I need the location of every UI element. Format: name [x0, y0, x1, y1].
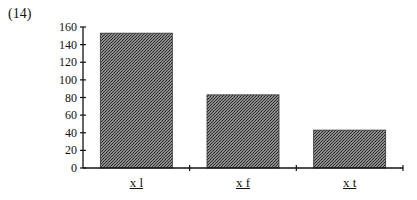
- y-tick-label: 60: [65, 108, 77, 122]
- x-category-label: x t: [343, 175, 356, 191]
- y-tick-label: 0: [71, 161, 77, 175]
- y-tick-label: 40: [65, 126, 77, 140]
- bar: [207, 95, 279, 168]
- bar-chart: 020406080100120140160: [0, 0, 417, 200]
- bar: [100, 33, 172, 168]
- y-tick-label: 140: [59, 38, 77, 52]
- y-tick-label: 20: [65, 143, 77, 157]
- bar: [314, 130, 386, 168]
- y-axis-ticks: 020406080100120140160: [59, 20, 86, 175]
- y-tick-label: 120: [59, 55, 77, 69]
- y-tick-label: 100: [59, 73, 77, 87]
- y-tick-label: 160: [59, 20, 77, 34]
- x-category-label: x f: [236, 175, 250, 191]
- x-category-label: x l: [130, 175, 143, 191]
- bars: [100, 33, 385, 168]
- y-tick-label: 80: [65, 91, 77, 105]
